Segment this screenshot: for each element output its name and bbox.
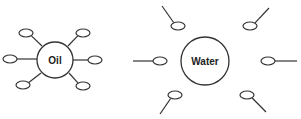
molecule-tail xyxy=(31,36,42,46)
oil-label: Oil xyxy=(48,55,62,66)
water-molecule-l xyxy=(133,57,167,65)
molecule-head xyxy=(261,57,275,65)
oil-molecule-ur xyxy=(68,29,90,46)
molecule-head xyxy=(19,29,33,37)
molecule-head xyxy=(76,82,90,90)
water-molecule-r xyxy=(261,57,297,65)
molecule-head xyxy=(240,91,254,99)
oil-molecule-ll xyxy=(16,73,41,89)
water-molecule-ur xyxy=(243,8,269,30)
molecule-tail xyxy=(160,99,171,114)
molecule-head xyxy=(16,81,30,89)
water-molecule-lr xyxy=(240,91,266,112)
molecule-head xyxy=(243,22,257,30)
molecule-tail xyxy=(255,8,269,23)
molecule-tail xyxy=(29,73,41,83)
molecule-tail xyxy=(162,6,174,22)
oil-molecule-l xyxy=(3,55,37,63)
molecule-tail xyxy=(69,73,78,83)
water-molecule-ll xyxy=(160,91,182,114)
molecule-head xyxy=(153,57,167,65)
molecule-tail xyxy=(252,98,266,112)
water-molecule-ul xyxy=(162,6,185,30)
oil-water-diagram: Oil Water xyxy=(0,0,301,119)
molecule-head xyxy=(168,91,182,99)
oil-molecule-lr xyxy=(69,73,90,90)
oil-molecule-ul xyxy=(19,29,42,46)
molecule-head xyxy=(171,22,185,30)
molecule-head xyxy=(3,55,17,63)
molecule-head xyxy=(76,29,90,37)
oil-molecule-r xyxy=(73,56,102,64)
water-label: Water xyxy=(191,56,219,67)
molecule-head xyxy=(88,56,102,64)
molecule-tail xyxy=(68,36,78,46)
